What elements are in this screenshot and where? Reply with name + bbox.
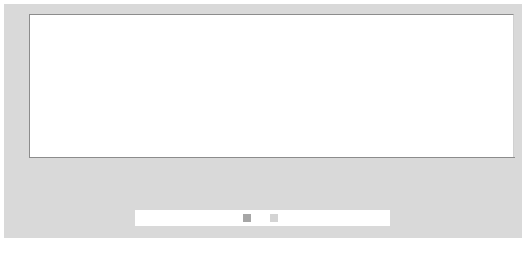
chart-legend — [135, 210, 390, 226]
x-axis-labels — [30, 160, 514, 182]
legend-item-health-care-spending — [243, 214, 256, 222]
chart-figure — [0, 0, 526, 256]
bar-series-container — [30, 14, 514, 157]
legend-swatch-icon — [243, 214, 251, 222]
legend-item-gdp — [270, 214, 283, 222]
legend-swatch-icon — [270, 214, 278, 222]
